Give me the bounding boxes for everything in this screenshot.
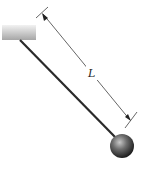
pendulum-diagram: L (0, 0, 157, 171)
dimension-tick-top (36, 7, 48, 18)
pendulum-string (20, 40, 116, 138)
length-label: L (87, 67, 95, 80)
length-dimension: L (36, 7, 137, 128)
pendulum-bob (110, 134, 134, 158)
dimension-tick-bottom (125, 112, 137, 128)
arrowhead-top-icon (42, 13, 48, 21)
ceiling-support (2, 25, 36, 40)
